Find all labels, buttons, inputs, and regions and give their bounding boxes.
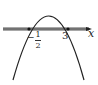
x-axis-label: x: [88, 28, 94, 39]
root-left-fraction: 1 2: [35, 31, 41, 50]
root-right-label: 3: [62, 31, 68, 41]
parabola-curve: [13, 16, 84, 80]
fraction-denominator: 2: [35, 41, 40, 50]
root-point-left: [27, 27, 30, 30]
root-left-sign: −: [27, 33, 35, 42]
graph-canvas: [0, 0, 98, 85]
fraction-numerator: 1: [35, 30, 40, 39]
